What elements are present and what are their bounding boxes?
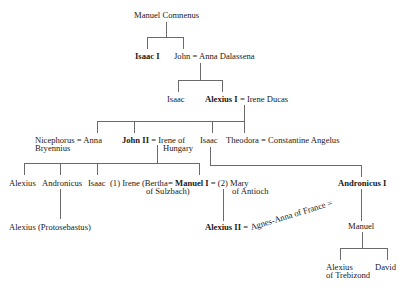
- line-children-of-manuel-comnenus: [147, 37, 184, 38]
- line-to-theodora: [244, 121, 245, 133]
- name-theodora: Theodora: [226, 135, 259, 145]
- node-manuel-comnenus: Manuel Comnenus: [134, 11, 199, 20]
- line-to-isaac-gen5: [97, 163, 98, 175]
- name-john-ii: John II: [122, 135, 149, 145]
- node-agnes-anna: Agnes-Anna of France =: [249, 197, 333, 232]
- node-andronicus-gen5: Andronicus: [42, 179, 82, 188]
- line-alexius-i-down: [244, 105, 245, 121]
- line-john-ii-down: [157, 145, 158, 163]
- node-david: David: [375, 263, 396, 272]
- node-john: John = Anna Dalassena: [174, 52, 255, 61]
- line-to-david: [387, 248, 388, 260]
- line-to-manuel-i: [199, 163, 200, 175]
- name-anna-dalassena: Anna Dalassena: [199, 51, 255, 61]
- name-agnes-anna: Agnes-Anna of France: [249, 200, 327, 232]
- name-john: John: [174, 51, 190, 61]
- node-alexius-i: Alexius I = Irene Ducas: [205, 95, 288, 104]
- line-to-isaac-gen3: [178, 80, 179, 92]
- line-manuel-i-down: [223, 189, 224, 221]
- line-children-of-manuel-gen6: [340, 248, 388, 249]
- line-to-alexius-trebizond: [340, 248, 341, 260]
- line-manuel-comnenus-down: [166, 22, 167, 37]
- node-isaac-gen3: Isaac: [167, 95, 185, 104]
- node-bryennius: Bryennius: [35, 144, 70, 153]
- name-alexius-ii: Alexius II: [205, 222, 241, 232]
- line-manuel-gen6-down: [362, 232, 363, 248]
- line-to-alexius-gen5: [24, 163, 25, 175]
- marriage-sign: =: [211, 178, 216, 188]
- marriage-sign: =: [151, 135, 156, 145]
- name-irene-ducas: Irene Ducas: [247, 94, 288, 104]
- marriage-sign: =: [261, 135, 266, 145]
- marriage-sign: =: [192, 51, 197, 61]
- node-isaac-i: Isaac I: [135, 52, 160, 61]
- line-to-alexius-i: [222, 80, 223, 92]
- node-isaac-gen5: Isaac: [88, 179, 106, 188]
- marriage-sign: =: [243, 222, 248, 232]
- name-alexius-i: Alexius I: [205, 94, 238, 104]
- line-children-of-alexius-i: [97, 121, 245, 122]
- line-isaac-gen4-down: [210, 147, 211, 165]
- node-andronicus-i: Andronicus I: [338, 179, 386, 188]
- node-theodora: Theodora = Constantine Angelus: [226, 136, 339, 145]
- line-to-anna: [97, 121, 98, 133]
- line-to-john-ii: [134, 121, 135, 133]
- line-to-andronicus-gen5: [60, 163, 61, 175]
- node-hungary: Hungary: [163, 144, 193, 153]
- marriage-sign: =: [240, 94, 245, 104]
- name-anna: Anna: [83, 135, 102, 145]
- marriage-sign: =: [77, 135, 82, 145]
- line-children-of-john-ii: [24, 163, 200, 164]
- node-manuel-gen6: Manuel: [348, 222, 374, 231]
- node-of-sulzbach: of Sulzbach): [146, 187, 190, 196]
- node-alexius-ii: Alexius II =: [205, 223, 248, 232]
- line-andronicus-to-protosebastus: [60, 189, 61, 219]
- line-to-isaac-gen4: [212, 121, 213, 133]
- line-john-down: [200, 63, 201, 80]
- node-of-antioch: of Antioch: [232, 187, 269, 196]
- name-manuel-i: Manuel I: [175, 178, 209, 188]
- node-alexius-protosebastus: Alexius (Protosebastus): [9, 223, 91, 232]
- node-of-trebizond: of Trebizond: [326, 271, 370, 280]
- marriage-sign: =: [168, 178, 173, 188]
- line-to-john: [183, 37, 184, 49]
- line-children-of-isaac-gen4: [210, 165, 362, 166]
- line-to-isaac-i: [147, 37, 148, 49]
- name-constantine-angelus: Constantine Angelus: [268, 135, 339, 145]
- marriage-sign: =: [326, 197, 334, 208]
- line-children-of-john: [178, 80, 223, 81]
- node-isaac-gen4: Isaac: [200, 136, 218, 145]
- line-to-andronicus-i: [361, 165, 362, 177]
- line-andronicus-i-down: [361, 189, 362, 221]
- node-alexius-gen5: Alexius: [9, 179, 36, 188]
